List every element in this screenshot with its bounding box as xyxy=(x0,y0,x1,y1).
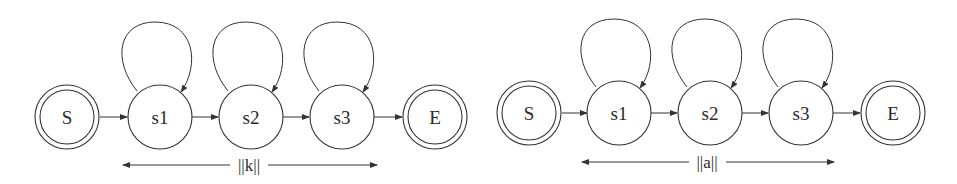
span-dimension: ||k|| xyxy=(123,156,377,175)
state-label: S xyxy=(62,107,73,128)
self-loop-arrow xyxy=(581,19,651,88)
state-label: E xyxy=(887,103,899,124)
state-end: E xyxy=(403,85,467,149)
state-s2: s2 xyxy=(213,22,283,149)
state-label: S xyxy=(524,103,535,124)
state-label: E xyxy=(429,107,441,128)
state-label: s2 xyxy=(243,107,260,128)
state-s2: s2 xyxy=(672,19,742,145)
state-s1: s1 xyxy=(122,22,192,149)
state-s1: s1 xyxy=(581,19,651,145)
state-start: S xyxy=(35,85,99,149)
state-label: s1 xyxy=(152,107,169,128)
self-loop-arrow xyxy=(122,22,192,92)
diagram-left: S s1 s2 s3 E ||k|| xyxy=(35,22,467,175)
state-label: s2 xyxy=(702,103,719,124)
state-end: E xyxy=(861,81,925,145)
state-s3: s3 xyxy=(763,19,833,145)
self-loop-arrow xyxy=(672,19,742,88)
span-label: ||k|| xyxy=(238,156,260,175)
span-label: ||a|| xyxy=(696,153,717,172)
self-loop-arrow xyxy=(213,22,283,92)
state-s3: s3 xyxy=(304,22,374,149)
hmm-diagrams: S s1 s2 s3 E ||k|| xyxy=(0,0,957,184)
state-label: s3 xyxy=(793,103,810,124)
self-loop-arrow xyxy=(763,19,833,88)
state-label: s3 xyxy=(334,107,351,128)
state-label: s1 xyxy=(611,103,628,124)
state-start: S xyxy=(497,81,561,145)
span-dimension: ||a|| xyxy=(582,153,834,172)
self-loop-arrow xyxy=(304,22,374,92)
diagram-right: S s1 s2 s3 E ||a|| xyxy=(497,19,925,172)
